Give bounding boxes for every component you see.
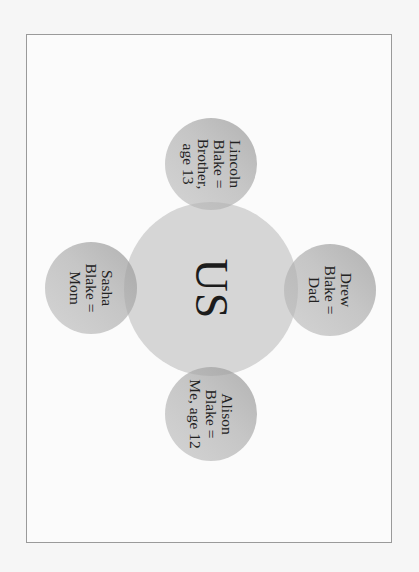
- node-right-label: Drew Blake = Dad: [306, 266, 353, 315]
- node-right-line-3: Dad: [306, 266, 322, 315]
- node-top-line-1: Lincoln: [227, 139, 243, 190]
- node-left-mom: Sasha Blake = Mom: [45, 242, 137, 334]
- node-left-line-1: Sasha: [99, 264, 115, 313]
- node-left-line-3: Mom: [67, 264, 83, 313]
- node-top-line-3: Brother,: [195, 139, 211, 190]
- node-bottom-me: Alison Blake = Me, age 12: [165, 367, 257, 461]
- node-bottom-line-3: Me, age 12: [187, 379, 203, 448]
- node-top-label: Lincoln Blake = Brother, age 13: [179, 139, 242, 190]
- node-right-dad: Drew Blake = Dad: [284, 244, 376, 336]
- center-circle: US: [124, 202, 298, 376]
- node-bottom-line-1: Alison: [219, 379, 235, 448]
- node-right-line-1: Drew: [338, 266, 354, 315]
- node-top-line-2: Blake =: [211, 139, 227, 190]
- node-top-line-4: age 13: [179, 139, 195, 190]
- node-left-label: Sasha Blake = Mom: [67, 264, 114, 313]
- center-label: US: [188, 259, 235, 320]
- node-right-line-2: Blake =: [322, 266, 338, 315]
- node-bottom-line-2: Blake =: [203, 379, 219, 448]
- node-left-line-2: Blake =: [83, 264, 99, 313]
- node-bottom-label: Alison Blake = Me, age 12: [187, 379, 234, 448]
- node-top-brother: Lincoln Blake = Brother, age 13: [165, 118, 257, 210]
